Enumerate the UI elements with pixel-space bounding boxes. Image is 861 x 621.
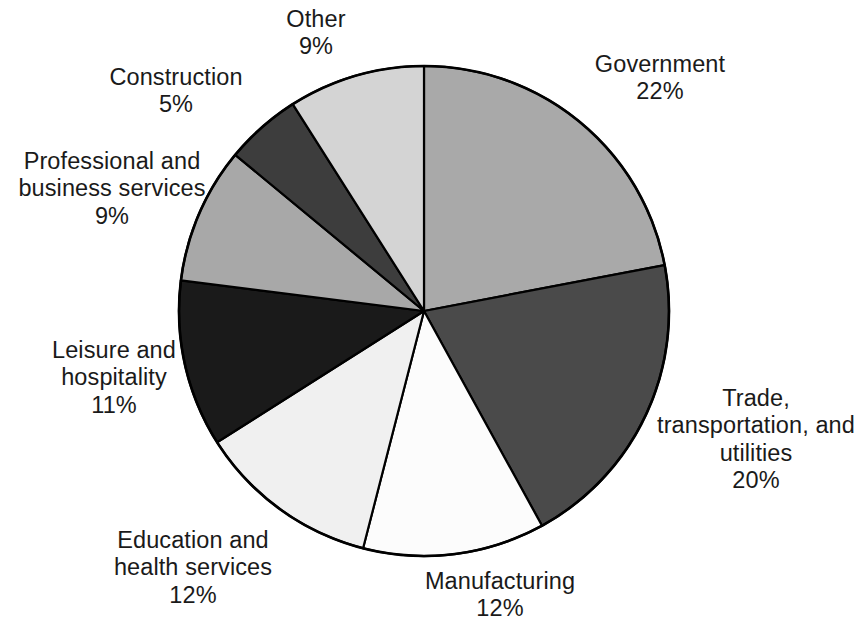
pie-label-other: Other 9% (236, 6, 396, 61)
pie-label-construction: Construction 5% (42, 64, 310, 119)
pie-label-professional-line2: business services (0, 175, 242, 202)
pie-label-other-value: 9% (236, 33, 396, 60)
pie-label-education-line1: Education and (78, 527, 308, 554)
pie-label-professional-and-business-services: Professional and business services 9% (0, 148, 242, 230)
pie-label-construction-name: Construction (42, 64, 310, 91)
pie-label-government: Government 22% (560, 51, 760, 106)
pie-chart-figure: Other 9% Construction 5% Professional an… (0, 0, 861, 621)
pie-label-education-value: 12% (78, 582, 308, 609)
pie-label-leisure-line1: Leisure and (14, 337, 214, 364)
pie-label-trade-transportation-and-utilities: Trade, transportation, and utilities 20% (656, 385, 856, 494)
pie-label-government-value: 22% (560, 78, 760, 105)
pie-label-leisure-value: 11% (14, 392, 214, 419)
pie-label-professional-value: 9% (0, 203, 242, 230)
pie-label-construction-value: 5% (42, 91, 310, 118)
pie-label-trade-line2: transportation, and (656, 412, 856, 439)
pie-label-education-line2: health services (78, 554, 308, 581)
pie-label-manufacturing: Manufacturing 12% (390, 568, 610, 621)
pie-label-manufacturing-name: Manufacturing (390, 568, 610, 595)
pie-label-manufacturing-value: 12% (390, 595, 610, 621)
pie-label-government-name: Government (560, 51, 760, 78)
pie-label-trade-value: 20% (656, 467, 856, 494)
pie-label-education-and-health-services: Education and health services 12% (78, 527, 308, 609)
pie-label-leisure-and-hospitality: Leisure and hospitality 11% (14, 337, 214, 419)
pie-label-trade-line1: Trade, (656, 385, 856, 412)
pie-label-trade-line3: utilities (656, 440, 856, 467)
pie-label-other-name: Other (236, 6, 396, 33)
pie-label-professional-line1: Professional and (0, 148, 242, 175)
pie-label-leisure-line2: hospitality (14, 364, 214, 391)
pie-slice-group (179, 66, 669, 556)
